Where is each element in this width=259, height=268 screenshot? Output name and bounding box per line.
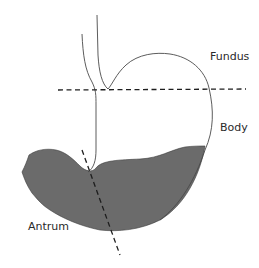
fundus-label: Fundus — [210, 51, 249, 62]
gastric-contents-fill — [22, 146, 205, 231]
stomach-diagram: Fundus Body Antrum — [0, 0, 259, 268]
antrum-label: Antrum — [28, 221, 69, 232]
lesser-curvature-outline — [82, 34, 96, 172]
body-label: Body — [220, 122, 248, 133]
fundus-body-boundary-line — [58, 89, 246, 90]
